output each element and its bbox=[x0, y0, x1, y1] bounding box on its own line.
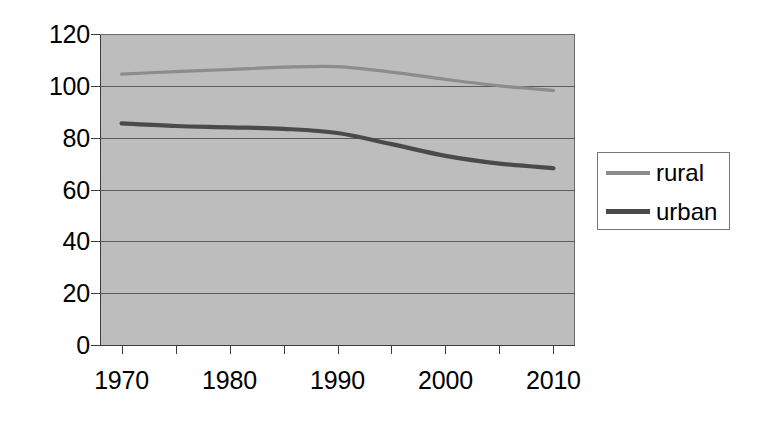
legend-swatch-urban bbox=[606, 209, 650, 214]
legend-swatch-rural bbox=[606, 171, 650, 175]
x-axis-tick-label: 2010 bbox=[493, 366, 613, 395]
chart-legend: rural urban bbox=[597, 152, 730, 230]
legend-entry-urban: urban bbox=[598, 192, 731, 231]
plot-area-background bbox=[100, 34, 575, 345]
y-axis-tick-label: 80 bbox=[4, 123, 90, 152]
legend-label-urban: urban bbox=[656, 200, 717, 224]
x-axis-tick-label: 2000 bbox=[385, 366, 505, 395]
y-axis-ticks bbox=[91, 35, 100, 346]
y-axis-tick-label: 20 bbox=[4, 279, 90, 308]
x-axis-tick-label: 1980 bbox=[170, 366, 290, 395]
y-axis-tick-label: 60 bbox=[4, 175, 90, 204]
x-axis-tick-label: 1990 bbox=[278, 366, 398, 395]
x-axis-ticks bbox=[123, 345, 554, 354]
y-axis-tick-label: 0 bbox=[4, 331, 90, 360]
y-axis-tick-label: 40 bbox=[4, 227, 90, 256]
line-chart: 020406080100120 19701980199020002010 rur… bbox=[0, 0, 768, 421]
y-axis-tick-label: 120 bbox=[4, 20, 90, 49]
legend-label-rural: rural bbox=[656, 161, 704, 185]
legend-entry-rural: rural bbox=[598, 153, 731, 192]
x-axis-tick-label: 1970 bbox=[62, 366, 182, 395]
y-axis-tick-label: 100 bbox=[4, 71, 90, 100]
